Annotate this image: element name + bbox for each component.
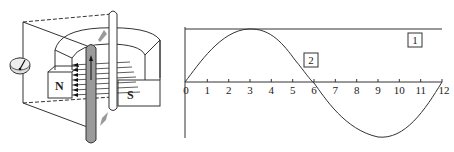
tick-label-3: 3: [247, 84, 253, 96]
tick-label-7: 7: [333, 84, 339, 96]
circuit-wires: [23, 14, 112, 128]
conductor-rod-back: [109, 11, 117, 111]
galvanometer-icon: [10, 58, 30, 74]
tick-label-0: 0: [183, 84, 189, 96]
tick-label-9: 9: [375, 84, 381, 96]
tick-label-2: 2: [226, 84, 232, 96]
conductor-rod: [86, 45, 96, 144]
callout-2: 2: [304, 53, 318, 67]
motion-arrow-up-icon: [98, 30, 107, 42]
tick-label-1: 1: [205, 84, 211, 96]
figure-canvas: N S: [0, 0, 454, 152]
motion-arrow-down-icon: [100, 112, 108, 126]
tick-label-5: 5: [290, 84, 296, 96]
callout-1: 1: [408, 33, 422, 47]
callout-2-label: 2: [308, 54, 314, 66]
north-pole-label: N: [55, 79, 64, 93]
south-pole-label: S: [127, 88, 134, 102]
magnet-apparatus-diagram: N S: [10, 11, 160, 143]
waveform-chart: 0 1 2 3 4 5 6 7 8 9 10 11 12 1 2: [183, 27, 449, 138]
tick-label-4: 4: [269, 84, 275, 96]
horseshoe-magnet: N S: [48, 28, 160, 106]
tick-label-11: 11: [415, 84, 426, 96]
callout-1-label: 1: [412, 34, 418, 46]
tick-label-10: 10: [394, 84, 406, 96]
tick-label-8: 8: [354, 84, 360, 96]
